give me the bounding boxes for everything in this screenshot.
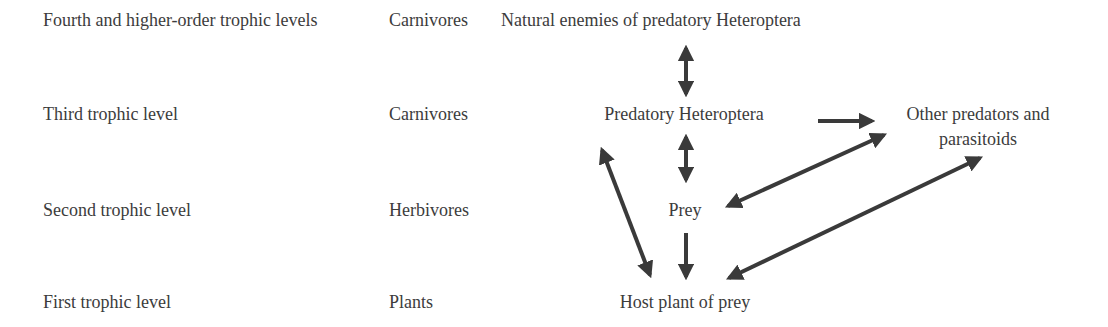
- arrow-predatory-hostplant: [602, 150, 650, 275]
- arrows-layer: [0, 0, 1108, 327]
- arrow-hostplant-other: [729, 158, 980, 278]
- arrow-prey-other: [728, 135, 884, 206]
